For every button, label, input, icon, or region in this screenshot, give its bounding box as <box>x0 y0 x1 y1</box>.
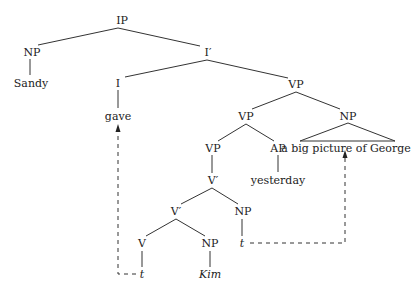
node-vp-mid: VP <box>238 110 253 123</box>
leaf-np-object-text: a big picture of George <box>281 142 411 155</box>
node-ip: IP <box>116 14 128 27</box>
node-v: V <box>138 237 146 250</box>
movement-arrow-np <box>250 158 345 243</box>
node-vbar-lower: V′ <box>171 205 181 218</box>
leaf-yesterday: yesterday <box>251 174 305 187</box>
leaf-sandy: Sandy <box>14 77 48 90</box>
node-np-subject: NP <box>23 46 40 59</box>
leaf-trace-v: t <box>140 268 144 281</box>
node-vbar-upper: V′ <box>208 174 218 187</box>
leaf-gave: gave <box>105 110 131 123</box>
movement-arrow-v <box>118 132 136 274</box>
node-np-kim: NP <box>201 237 218 250</box>
node-vp-low: VP <box>205 142 220 155</box>
node-ibar: I′ <box>205 46 212 59</box>
node-i: I <box>116 77 120 90</box>
node-np-object: NP <box>339 110 356 123</box>
leaf-trace-np: t <box>240 237 244 250</box>
node-np-trace: NP <box>234 205 251 218</box>
node-vp-top: VP <box>288 78 303 91</box>
node-ap: AP <box>270 142 285 155</box>
leaf-kim: Kim <box>199 268 221 281</box>
